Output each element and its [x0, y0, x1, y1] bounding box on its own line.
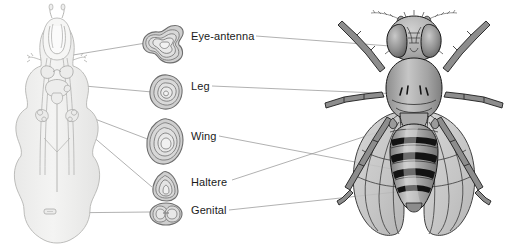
fly-thorax	[386, 58, 442, 120]
haltere-disc-icon	[153, 171, 178, 201]
fly-leg-front-left	[338, 21, 385, 72]
larva-ventral-ganglion	[51, 93, 62, 104]
imaginal-discs-column	[143, 25, 183, 225]
fly-leg-front-right	[443, 21, 490, 72]
larva-papilla-tip-left	[49, 4, 53, 10]
leg-disc-icon	[150, 75, 182, 109]
fly-eye-left	[387, 24, 407, 57]
label-haltere: Haltere	[191, 177, 227, 188]
fly-eye-right	[421, 24, 441, 57]
fly-leg-mid-right	[444, 92, 503, 108]
adult-fly-diagram	[325, 10, 503, 235]
eye-antenna-disc-icon	[143, 25, 183, 62]
larva-diagram	[14, 4, 99, 243]
imaginal-disc-fate-map-figure: Eye-antenna Leg Wing Haltere Genital	[0, 0, 511, 249]
leader-eye-antenna-fly	[256, 36, 390, 46]
fly-leg-hind-left-tarsus	[337, 190, 353, 205]
figure-canvas	[0, 0, 511, 249]
wing-disc-icon	[147, 119, 183, 164]
fly-leg-mid-left	[325, 92, 384, 108]
larva-papilla-tip-right	[61, 4, 65, 10]
fly-genitalia	[406, 203, 422, 212]
label-genital: Genital	[191, 205, 227, 216]
larva-genital-disc-insitu	[44, 209, 56, 214]
larva-leg-disc-insitu	[64, 85, 71, 91]
label-eye-antenna: Eye-antenna	[191, 31, 254, 42]
genital-disc-icon	[150, 203, 182, 225]
leader-larva-eye-antenna	[73, 42, 152, 55]
label-leg: Leg	[191, 81, 210, 92]
label-wing: Wing	[191, 131, 216, 142]
fly-leg-hind-right-tarsus	[475, 190, 491, 205]
